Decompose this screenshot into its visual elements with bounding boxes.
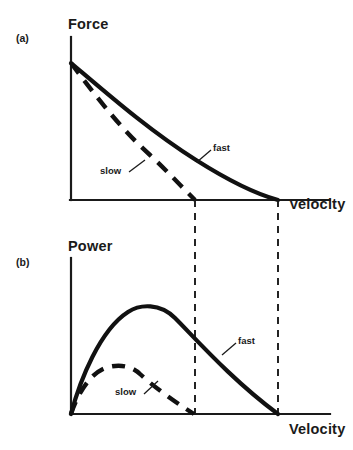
panel-b-label-fast: fast [238, 336, 255, 346]
panel-a-label-slow: slow [100, 166, 121, 176]
figure-root: (a) Force Velocity fast slow (b) Power V… [0, 0, 353, 450]
panel-b-x-axis-label: Velocity [289, 422, 345, 437]
figure-canvas [0, 0, 353, 450]
panel-b-group [70, 258, 330, 414]
panel-a-slow-leader-line [129, 160, 145, 172]
panel-a-fast-leader-line [197, 150, 211, 162]
panel-b-label-slow: slow [115, 387, 136, 397]
panel-b-curve-fast [71, 306, 278, 414]
panel-a-x-axis-label: Velocity [289, 197, 345, 212]
panel-a-label-fast: fast [213, 143, 230, 153]
panel-a-tag: (a) [16, 33, 29, 44]
panel-b-y-axis-label: Power [68, 239, 113, 254]
panel-a-curve-slow [71, 63, 195, 200]
panel-b-fast-leader-line [222, 343, 236, 355]
panel-b-tag: (b) [16, 257, 29, 268]
panel-a-y-axis-label: Force [68, 17, 109, 32]
